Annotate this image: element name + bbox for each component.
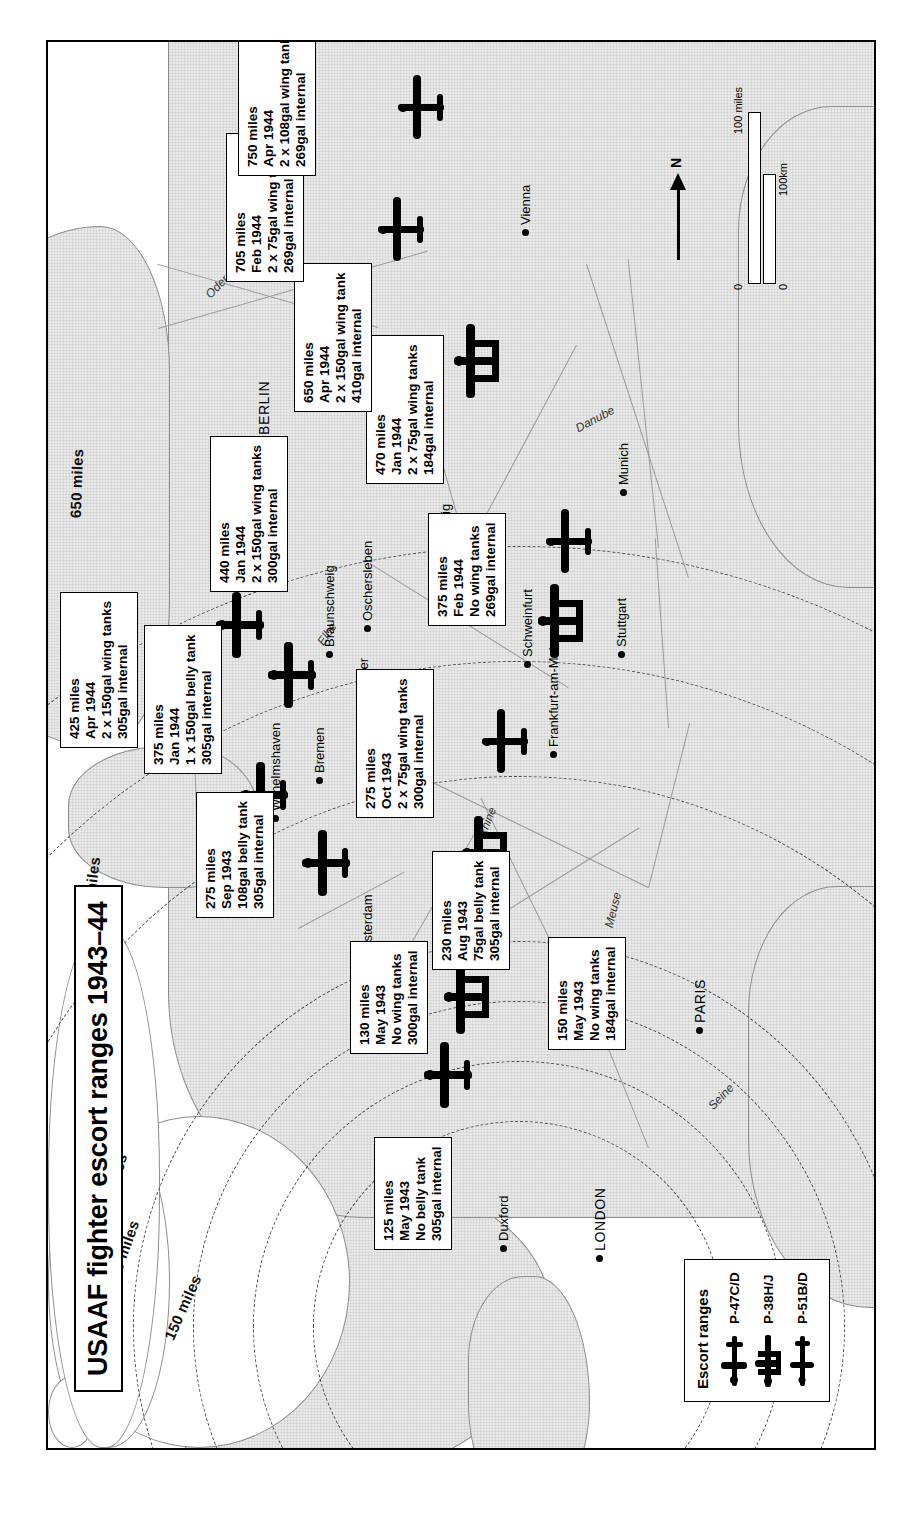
annotation-box-440-miles: 440 miles Jan 1944 2 x 150gal wing tanks…: [210, 436, 288, 592]
annotation-box-650-miles: 650 miles Apr 1944 2 x 150gal wing tank …: [294, 263, 372, 412]
city-label: Bremen: [312, 727, 327, 773]
scale-label-miles: 100 miles: [732, 87, 744, 134]
single-engine-mustang-icon: [787, 1333, 817, 1389]
city-label: PARIS: [692, 979, 708, 1023]
annotation-box-275-miles-oct: 275 miles Oct 1943 2 x 75gal wing tanks …: [356, 669, 434, 818]
annotation-internal: 410gal internal: [349, 272, 365, 403]
aircraft-p38-440mi: [532, 582, 594, 660]
annotation-tanks: No wing tanks: [587, 946, 603, 1041]
annotation-date: Sep 1943: [219, 801, 235, 909]
scale-label-km: 100km: [777, 163, 789, 196]
annotation-internal: 184gal internal: [421, 344, 437, 475]
annotation-internal: 305gal internal: [429, 1146, 445, 1241]
city-dot: [550, 751, 557, 758]
annotation-range: 125 miles: [381, 1146, 397, 1241]
annotation-range: 750 miles: [245, 40, 261, 167]
annotation-tanks: 75gal belly tank: [471, 860, 487, 961]
annotation-tanks: 2 x 75gal wing tanks: [405, 344, 421, 475]
annotation-box-375-miles-jan: 375 miles Jan 1944 1 x 150gal belly tank…: [144, 625, 222, 774]
annotation-range: 150 miles: [555, 946, 571, 1041]
annotation-internal: 305gal internal: [487, 860, 503, 961]
annotation-date: Feb 1944: [451, 522, 467, 617]
annotation-box-375-miles-feb: 375 miles Feb 1944 No wing tanks 269gal …: [428, 513, 506, 626]
annotation-internal: 305gal internal: [115, 601, 131, 739]
annotation-box-150-miles: 150 miles May 1943 No wing tanks 184gal …: [548, 937, 626, 1050]
annotation-range: 275 miles: [363, 678, 379, 809]
annotation-internal: 269gal internal: [293, 40, 309, 167]
aircraft-p51-750mi: [394, 72, 448, 142]
annotation-date: Apr 1944: [317, 272, 333, 403]
annotation-range: 650 miles: [301, 272, 317, 403]
annotation-date: Apr 1944: [83, 601, 99, 739]
city-label: BERLIN: [256, 381, 272, 435]
annotation-box-230-miles: 230 miles Aug 1943 75gal belly tank 305g…: [432, 851, 510, 970]
annotation-tanks: No belly tank: [413, 1146, 429, 1241]
north-arrow-head: [670, 173, 686, 190]
annotation-date: Jan 1944: [389, 344, 405, 475]
legend-label-p47: P-47C/D: [727, 1272, 742, 1324]
city-label: Duxford: [496, 1195, 511, 1241]
annotation-box-425-miles: 425 miles Apr 1944 2 x 150gal wing tanks…: [60, 592, 138, 748]
north-arrow-stem: [677, 188, 680, 260]
annotation-range: 470 miles: [373, 344, 389, 475]
city-dot: [596, 1255, 603, 1262]
scale-label-zero-miles: 0: [732, 284, 744, 290]
annotation-internal: 300gal internal: [411, 678, 427, 809]
annotation-tanks: No wing tanks: [467, 522, 483, 617]
annotation-box-125-miles: 125 miles May 1943 No belly tank 305gal …: [374, 1137, 452, 1250]
range-ring-label-650: 650 miles: [67, 448, 86, 518]
annotation-tanks: 2 x 75gal wing tanks: [395, 678, 411, 809]
annotation-tanks: 2 x 108gal wing tanks: [277, 40, 293, 167]
legend-row-p47: P-47C/D: [717, 1272, 751, 1389]
legend-heading: Escort ranges: [694, 1272, 711, 1389]
city-dot: [524, 661, 531, 668]
city-label: Braunschweig: [322, 565, 337, 647]
city-dot: [326, 651, 333, 658]
aircraft-p51-375mi: [478, 706, 532, 776]
annotation-box-130-miles: 130 miles May 1943 No wing tanks 300gal …: [350, 941, 428, 1054]
annotation-tanks: 2 x 150gal wing tank: [333, 272, 349, 403]
rotated-map-canvas: 150 miles 200 miles 250 miles 300 miles …: [0, 0, 919, 1534]
map-page: 150 miles 200 miles 250 miles 300 miles …: [0, 0, 919, 1534]
annotation-date: May 1943: [373, 950, 389, 1045]
annotation-date: Aug 1943: [455, 860, 471, 961]
city-dot: [364, 625, 371, 632]
annotation-tanks: No wing tanks: [389, 950, 405, 1045]
north-arrow-label: N: [668, 158, 684, 168]
annotation-range: 230 miles: [439, 860, 455, 961]
legend-row-p38: P-38H/J: [751, 1272, 785, 1389]
city-dot: [522, 229, 529, 236]
city-label: LONDON: [592, 1188, 608, 1252]
city-dot: [316, 777, 323, 784]
city-dot: [500, 1245, 507, 1252]
annotation-box-470-miles: 470 miles Jan 1944 2 x 75gal wing tanks …: [366, 335, 444, 484]
annotation-internal: 305gal internal: [199, 634, 215, 765]
annotation-range: 275 miles: [203, 801, 219, 909]
annotation-date: Jan 1944: [167, 634, 183, 765]
scale-bar-km: [763, 174, 776, 284]
aircraft-p51-470mi: [542, 506, 596, 576]
aircraft-p51-705mi: [374, 194, 428, 264]
scale-bar-miles: [748, 112, 761, 284]
annotation-internal: 300gal internal: [405, 950, 421, 1045]
city-label: Oschersleben: [360, 541, 375, 621]
aircraft-p47-230mi: [298, 826, 354, 900]
annotation-range: 425 miles: [67, 601, 83, 739]
legend-row-p51: P-51B/D: [785, 1272, 819, 1389]
city-label: Vienna: [518, 185, 533, 225]
annotation-internal: 305gal internal: [251, 801, 267, 909]
city-label: Munich: [616, 443, 631, 485]
annotation-date: Jan 1944: [233, 445, 249, 583]
twin-boom-fighter-icon: [752, 1333, 784, 1389]
annotation-tanks: 1 x 150gal belly tank: [183, 634, 199, 765]
legend-label-p51: P-51B/D: [795, 1272, 810, 1324]
annotation-box-750-miles: 750 miles Apr 1944 2 x 108gal wing tanks…: [238, 40, 316, 176]
scale-label-zero-km: 0: [777, 284, 789, 290]
aircraft-p38-650mi: [448, 322, 510, 400]
aircraft-p47-125mi: [420, 1038, 476, 1112]
annotation-internal: 300gal internal: [265, 445, 281, 583]
annotation-tanks: 2 x 150gal wing tanks: [249, 445, 265, 583]
single-engine-fighter-icon: [719, 1333, 749, 1389]
annotation-range: 375 miles: [435, 522, 451, 617]
city-dot: [618, 651, 625, 658]
